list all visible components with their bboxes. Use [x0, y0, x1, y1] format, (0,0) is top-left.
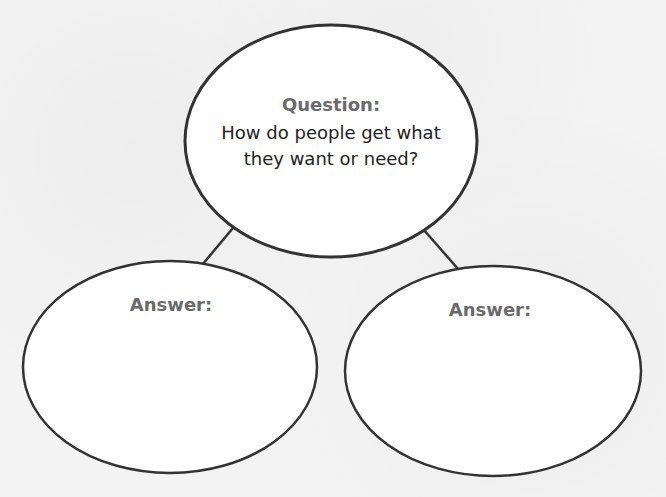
connector-left [202, 228, 233, 265]
answer-content-left[interactable] [60, 330, 280, 440]
question-line-1: How do people get what [221, 120, 440, 145]
question-line-2: they want or need? [244, 146, 419, 171]
answer-heading-right: Answer: [449, 299, 531, 320]
web-diagram: Question: How do people get what they wa… [0, 0, 666, 497]
question-heading: Question: [282, 94, 380, 115]
answer-heading-left: Answer: [130, 294, 212, 315]
answer-content-right[interactable] [383, 334, 603, 444]
connector-right [423, 229, 459, 270]
